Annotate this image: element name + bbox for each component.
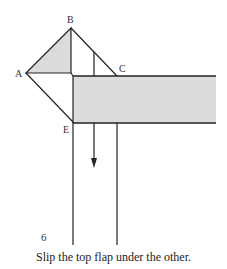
origami-diagram: A B C E xyxy=(0,0,227,269)
edge-a-e xyxy=(26,73,73,122)
label-e: E xyxy=(63,124,69,135)
label-c: C xyxy=(119,63,126,74)
step-number: 6 xyxy=(41,231,47,243)
label-b: B xyxy=(67,14,74,25)
step-caption: Slip the top flap under the other. xyxy=(0,250,227,265)
inner-vertical xyxy=(71,73,73,76)
horizontal-strip xyxy=(73,76,216,123)
shaded-flap-triangle xyxy=(26,28,71,73)
arrow-down-icon xyxy=(91,158,97,168)
label-a: A xyxy=(15,68,23,79)
